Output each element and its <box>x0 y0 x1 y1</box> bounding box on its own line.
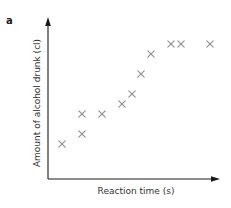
data-point-x-marker-icon <box>99 111 105 117</box>
panel-label: a <box>6 15 13 26</box>
y-axis <box>45 17 51 179</box>
data-point-x-marker-icon <box>129 91 135 97</box>
data-point-x-marker-icon <box>138 71 144 77</box>
x-axis-label: Reaction time (s) <box>98 186 175 196</box>
data-point-x-marker-icon <box>79 111 85 117</box>
y-axis-label: Amount of alcohol drunk (cl) <box>32 39 42 167</box>
data-point-x-marker-icon <box>207 41 213 47</box>
data-point-x-marker-icon <box>59 141 65 147</box>
x-axis <box>48 176 220 182</box>
data-point-x-marker-icon <box>168 41 174 47</box>
data-point-x-marker-icon <box>119 101 125 107</box>
y-axis-arrow-icon <box>45 17 51 26</box>
data-points <box>59 41 213 147</box>
data-point-x-marker-icon <box>148 51 154 57</box>
x-axis-arrow-icon <box>211 176 220 182</box>
data-point-x-marker-icon <box>79 131 85 137</box>
data-point-x-marker-icon <box>178 41 184 47</box>
scatter-chart: a Amount of alcohol drunk (cl) Reaction … <box>0 0 231 208</box>
